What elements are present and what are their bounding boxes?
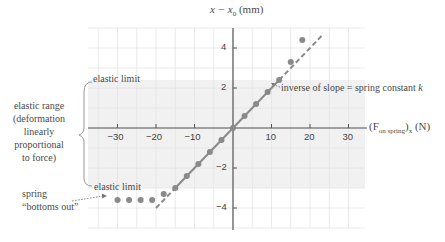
data-point: [184, 173, 190, 179]
x-tick-label: −20: [146, 131, 162, 142]
elastic-limit-top-label: elastic limit: [93, 73, 140, 84]
y-tick-label: 2: [221, 81, 226, 92]
x-tick-label: −10: [185, 131, 201, 142]
data-point: [115, 197, 121, 203]
data-point: [138, 197, 144, 203]
data-point: [149, 197, 155, 203]
data-point: [288, 59, 294, 65]
y-tick-label: 4: [221, 41, 226, 52]
data-point: [161, 191, 167, 197]
data-point: [195, 161, 201, 167]
data-point: [126, 197, 132, 203]
bottoms-out-label: spring “bottoms out”: [22, 187, 78, 213]
data-point: [218, 137, 224, 143]
y-tick-label: −4: [216, 201, 227, 212]
y-axis-label: x − x0 (mm): [210, 3, 263, 18]
fit-line-dashed-lower: [156, 188, 175, 208]
data-point: [230, 125, 236, 131]
data-point: [207, 149, 213, 155]
x-tick-label: −30: [108, 131, 124, 142]
x-tick-label: 30: [343, 131, 354, 142]
data-point: [253, 101, 259, 107]
fit-line-dashed-upper: [279, 36, 321, 80]
x-axis-label: (Fon spring)x (N): [369, 120, 430, 135]
slope-annotation: inverse of slope = spring constant k: [281, 82, 423, 93]
x-tick-label: 10: [266, 131, 277, 142]
data-point: [265, 89, 271, 95]
elastic-range-label: elastic range (deformation linearly prop…: [4, 99, 74, 164]
data-point: [172, 185, 178, 191]
elastic-limit-bottom-label: elastic limit: [94, 181, 141, 192]
data-point: [299, 37, 305, 43]
x-tick-label: 20: [304, 131, 315, 142]
bottoms-out-arrowhead-icon: [102, 194, 107, 199]
data-point: [242, 113, 248, 119]
y-tick-label: −2: [216, 161, 227, 172]
